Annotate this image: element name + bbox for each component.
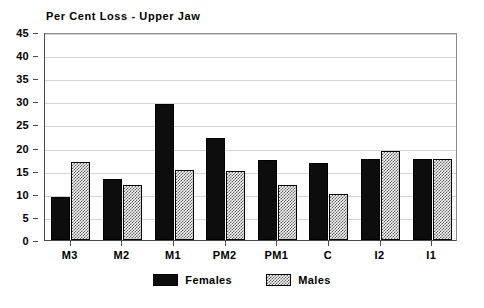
chart-figure: Per Cent Loss - Upper Jaw 05101520253035…	[0, 0, 484, 308]
chart-legend: FemalesMales	[0, 274, 484, 286]
bar-males-i2	[381, 151, 400, 240]
x-tick-label-pm2: PM2	[213, 249, 237, 261]
y-tick-label: 30	[16, 97, 29, 108]
legend-label-males: Males	[298, 274, 331, 286]
bar-group	[45, 34, 97, 240]
y-tick-label: 40	[16, 51, 29, 62]
bar-group	[252, 34, 304, 240]
y-tick-mark	[33, 195, 38, 196]
x-tick-mark	[173, 241, 174, 246]
legend-swatch-females	[153, 274, 178, 286]
x-axis: M3M2M1PM2PM1CI2I1	[44, 241, 457, 263]
bar-females-i2	[361, 159, 380, 240]
y-tick-mark	[33, 149, 38, 150]
bar-group	[148, 34, 200, 240]
bar-males-m3	[71, 162, 90, 240]
x-tick-label-m1: M1	[165, 249, 181, 261]
x-tick-mark	[431, 241, 432, 246]
bar-males-m1	[175, 170, 194, 240]
y-tick-mark	[33, 56, 38, 57]
bar-group	[303, 34, 355, 240]
x-tick-label-i1: I1	[426, 249, 436, 261]
bar-males-m2	[123, 185, 142, 240]
y-axis: 051015202530354045	[0, 33, 38, 241]
x-tick-label-pm1: PM1	[264, 249, 288, 261]
bar-group	[200, 34, 252, 240]
y-tick-mark	[33, 33, 38, 34]
legend-swatch-males	[266, 274, 291, 286]
y-tick-label: 45	[16, 28, 29, 39]
bar-females-pm1	[258, 160, 277, 240]
y-tick-mark	[33, 79, 38, 80]
y-tick-mark	[33, 241, 38, 242]
legend-entry-females: Females	[153, 274, 232, 286]
x-tick-mark	[121, 241, 122, 246]
bar-group	[97, 34, 149, 240]
bar-males-pm1	[278, 185, 297, 240]
legend-label-females: Females	[185, 274, 232, 286]
legend-entry-males: Males	[266, 274, 331, 286]
x-tick-label-c: C	[324, 249, 332, 261]
x-tick-mark	[225, 241, 226, 246]
y-tick-label: 15	[16, 166, 29, 177]
bar-females-c	[309, 163, 328, 240]
bar-males-c	[329, 194, 348, 240]
x-tick-label-i2: I2	[375, 249, 385, 261]
bar-males-pm2	[226, 171, 245, 240]
x-tick-mark	[276, 241, 277, 246]
y-tick-mark	[33, 125, 38, 126]
bar-group	[355, 34, 407, 240]
y-tick-mark	[33, 172, 38, 173]
x-tick-mark	[380, 241, 381, 246]
y-tick-label: 10	[16, 189, 29, 200]
y-tick-label: 25	[16, 120, 29, 131]
bar-females-m1	[155, 104, 174, 240]
y-tick-mark	[33, 102, 38, 103]
y-tick-mark	[33, 218, 38, 219]
bar-females-m3	[51, 197, 70, 240]
x-tick-mark	[70, 241, 71, 246]
bar-males-i1	[433, 159, 452, 240]
bar-females-pm2	[206, 138, 225, 240]
x-tick-label-m2: M2	[113, 249, 129, 261]
y-tick-label: 0	[23, 236, 29, 247]
x-tick-mark	[328, 241, 329, 246]
x-tick-label-m3: M3	[62, 249, 78, 261]
y-tick-label: 35	[16, 74, 29, 85]
bar-females-i1	[413, 159, 432, 240]
bars-layer	[45, 34, 456, 240]
y-tick-label: 5	[23, 212, 29, 223]
chart-title: Per Cent Loss - Upper Jaw	[46, 10, 200, 23]
plot-area	[44, 33, 457, 241]
bar-group	[406, 34, 458, 240]
y-tick-label: 20	[16, 143, 29, 154]
bar-females-m2	[103, 179, 122, 240]
